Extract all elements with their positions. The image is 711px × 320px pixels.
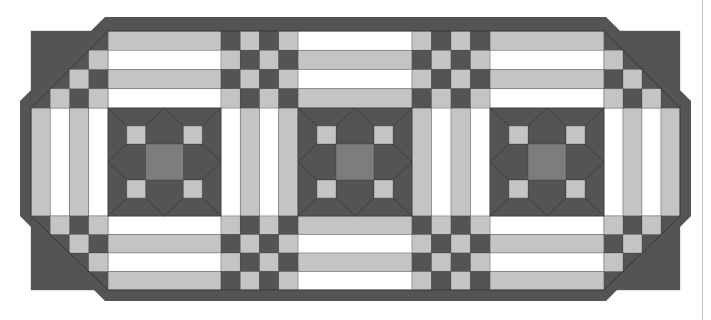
checker-cell-dark bbox=[260, 235, 279, 254]
checker-cell-light bbox=[260, 50, 279, 69]
checker-cell-light bbox=[623, 70, 642, 89]
star-blocks bbox=[108, 108, 604, 216]
star-block-center bbox=[298, 108, 412, 216]
checker-cell-light bbox=[221, 50, 240, 69]
strip-white bbox=[490, 253, 604, 272]
star-corner-square bbox=[566, 180, 585, 198]
checker-cell-light bbox=[240, 70, 259, 89]
page-edge-line bbox=[702, 0, 703, 320]
checker-cell-light bbox=[89, 50, 108, 69]
checker-cell-light bbox=[240, 31, 259, 50]
checker-cell-dark bbox=[432, 235, 452, 254]
strip-white bbox=[298, 272, 412, 291]
checker-cell-light bbox=[279, 235, 298, 254]
checker-cell-light bbox=[451, 235, 471, 254]
checker-cell-light bbox=[221, 89, 240, 108]
checker-cell-dark bbox=[471, 31, 491, 50]
star-corner-square bbox=[509, 126, 528, 144]
star-corner-square bbox=[374, 126, 393, 144]
strip-light bbox=[298, 216, 412, 235]
checker-cell-light bbox=[260, 89, 279, 108]
checker-cell-light bbox=[279, 272, 298, 291]
checker-cell-dark bbox=[89, 70, 108, 89]
checker-cell-dark bbox=[260, 31, 279, 50]
strip-light bbox=[240, 108, 259, 216]
checker-cell-dark bbox=[279, 50, 298, 69]
checker-cell-light bbox=[471, 89, 491, 108]
checker-cell-dark bbox=[604, 70, 623, 89]
center-left-vertical-strips bbox=[221, 108, 298, 216]
checker-cell-light bbox=[471, 50, 491, 69]
strip-light bbox=[31, 108, 50, 216]
top-checker-1 bbox=[221, 31, 298, 108]
strip-light bbox=[451, 108, 471, 216]
checker-cell-dark bbox=[260, 272, 279, 291]
strip-white bbox=[221, 108, 240, 216]
strip-light bbox=[490, 31, 604, 50]
checker-cell-dark bbox=[221, 70, 240, 89]
star-corner-square bbox=[374, 180, 393, 198]
checker-cell-dark bbox=[240, 216, 259, 235]
strip-light bbox=[661, 108, 680, 216]
checker-cell-light bbox=[279, 31, 298, 50]
checker-cell-light bbox=[471, 253, 491, 272]
checker-cell-light bbox=[50, 216, 69, 235]
strip-white bbox=[298, 31, 412, 50]
checker-cell-dark bbox=[451, 216, 471, 235]
checker-cell-dark bbox=[451, 253, 471, 272]
checker-cell-dark bbox=[70, 216, 89, 235]
checker-cell-light bbox=[70, 235, 89, 254]
strip-white bbox=[260, 108, 279, 216]
checker-cell-dark bbox=[279, 216, 298, 235]
checker-cell-dark bbox=[432, 272, 452, 291]
strip-white bbox=[108, 216, 221, 235]
checker-cell-dark bbox=[279, 253, 298, 272]
quilt-table-runner bbox=[0, 0, 711, 320]
checker-cell-light bbox=[240, 272, 259, 291]
top-right-strips bbox=[490, 31, 604, 108]
strip-light bbox=[108, 235, 221, 254]
checker-cell-light bbox=[604, 253, 623, 272]
checker-cell-light bbox=[89, 253, 108, 272]
checker-cell-dark bbox=[412, 89, 432, 108]
checker-cell-light bbox=[432, 89, 452, 108]
checker-cell-light bbox=[412, 272, 432, 291]
checker-cell-light bbox=[279, 70, 298, 89]
checker-cell-dark bbox=[240, 253, 259, 272]
checker-cell-light bbox=[89, 89, 108, 108]
checker-cell-dark bbox=[221, 272, 240, 291]
strip-white bbox=[471, 108, 491, 216]
bottom-left-strips bbox=[108, 216, 221, 290]
strip-white bbox=[108, 50, 221, 69]
strip-light bbox=[298, 50, 412, 69]
strip-light bbox=[490, 272, 604, 291]
left-vertical-strips bbox=[31, 108, 108, 216]
top-middle-strips bbox=[298, 31, 412, 108]
checker-cell-light bbox=[221, 216, 240, 235]
strip-white bbox=[642, 108, 661, 216]
strip-light bbox=[490, 70, 604, 89]
checker-cell-light bbox=[412, 235, 432, 254]
checker-cell-dark bbox=[240, 50, 259, 69]
checker-cell-dark bbox=[604, 235, 623, 254]
checker-cell-light bbox=[604, 89, 623, 108]
star-center-square bbox=[336, 144, 374, 180]
checker-cell-light bbox=[412, 31, 432, 50]
strip-white bbox=[89, 108, 108, 216]
checker-cell-dark bbox=[221, 31, 240, 50]
checker-cell-light bbox=[623, 235, 642, 254]
checker-cell-dark bbox=[451, 50, 471, 69]
bottom-checker-1 bbox=[221, 216, 298, 290]
checker-cell-light bbox=[451, 272, 471, 291]
strip-light bbox=[298, 253, 412, 272]
strip-white bbox=[604, 108, 623, 216]
star-center-square bbox=[528, 144, 566, 180]
checker-cell-dark bbox=[451, 89, 471, 108]
star-corner-square bbox=[566, 126, 585, 144]
checker-cell-dark bbox=[412, 50, 432, 69]
star-corner-square bbox=[317, 126, 336, 144]
strip-light bbox=[108, 70, 221, 89]
strip-white bbox=[490, 50, 604, 69]
checker-cell-dark bbox=[623, 216, 642, 235]
checker-cell-dark bbox=[279, 89, 298, 108]
